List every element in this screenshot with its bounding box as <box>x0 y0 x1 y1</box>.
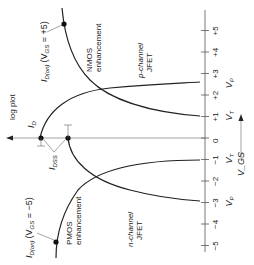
idon-pmos-leader <box>37 233 54 240</box>
vgs-tick-label: −1 <box>211 155 220 165</box>
idon-pmos-label: ID(on)(VGS = −5) <box>24 197 35 258</box>
vgs-tick-label: +3 <box>211 69 220 79</box>
vgs-tick-label: +2 <box>211 90 220 100</box>
log-plot-label: log plot <box>8 93 17 120</box>
vgs-axis-label: V_GS <box>236 152 246 176</box>
p-jfet-label: p-channel <box>136 43 145 79</box>
vgs-marker-label: VT <box>224 109 235 120</box>
pmos-label-2: enhancement <box>74 196 83 245</box>
id-axis-arrow-icon <box>6 136 13 141</box>
pmos-label: PMOS <box>65 221 74 245</box>
vgs-tick-label: +4 <box>211 47 220 57</box>
vgs-tick-label: 0 <box>211 138 220 143</box>
fet-transfer-diagram: +5+4+3+2+10−1−2−3−4−5 log plot ID IDSS I… <box>0 0 254 265</box>
vgs-tick-label: −3 <box>211 198 220 208</box>
n-jfet-label-2: JFET <box>135 221 144 240</box>
idon-nmos-leader <box>47 25 62 32</box>
vgs-markers: VPVTVTVP <box>224 78 235 206</box>
nmos-enhancement-curve <box>62 8 200 116</box>
id-on-nmos-point <box>61 21 66 26</box>
vgs-tick-label: +5 <box>211 26 220 36</box>
vgs-marker-label: VT <box>224 152 235 163</box>
vgs-tick-label: +1 <box>211 112 220 122</box>
vgs-tick-label: −5 <box>211 241 220 251</box>
n-jfet-label: n-channel <box>126 212 135 247</box>
n-channel-jfet-curve <box>68 138 200 201</box>
id-axis-label: ID <box>26 120 37 128</box>
idss-label: IDSS <box>47 155 58 170</box>
idss-leader <box>44 140 65 152</box>
vgs-marker-label: VP <box>224 196 235 206</box>
nmos-label: NMOS <box>85 48 94 72</box>
id-on-pmos-point <box>53 239 58 244</box>
vgs-tick-label: −2 <box>211 176 220 186</box>
p-jfet-label-2: JFET <box>145 53 154 72</box>
vgs-arrow-icon <box>239 114 244 121</box>
p-channel-jfet-curve <box>40 82 200 138</box>
vgs-tick-label: −4 <box>211 219 220 229</box>
nmos-label-2: enhancement <box>94 23 103 72</box>
idon-nmos-label: ID(on)(VGS = +5) <box>39 21 50 82</box>
vgs-marker-label: VP <box>224 78 235 88</box>
